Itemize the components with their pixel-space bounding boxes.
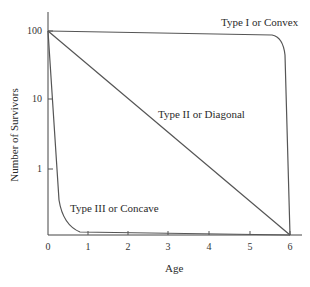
x-tick-label-4: 4 bbox=[207, 241, 212, 252]
x-tick-label-6: 6 bbox=[288, 241, 293, 252]
y-axis-label: Number of Survivors bbox=[8, 88, 20, 182]
x-tick-label-1: 1 bbox=[86, 241, 91, 252]
x-axis-label: Age bbox=[165, 262, 183, 274]
type2-label: Type II or Diagonal bbox=[158, 108, 245, 120]
y-tick-label-100: 100 bbox=[12, 25, 42, 36]
x-tick-label-0: 0 bbox=[46, 241, 51, 252]
type3-label: Type III or Concave bbox=[70, 202, 159, 214]
x-tick-label-5: 5 bbox=[248, 241, 253, 252]
x-tick-label-3: 3 bbox=[166, 241, 171, 252]
x-tick-label-2: 2 bbox=[126, 241, 131, 252]
type1-label: Type I or Convex bbox=[221, 16, 298, 28]
